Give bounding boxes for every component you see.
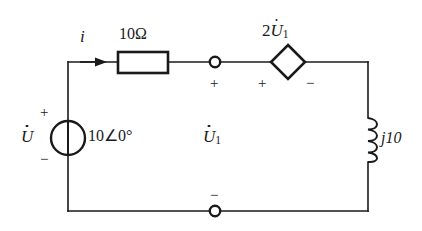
terminal-node-top [210, 57, 220, 67]
dependent-source-plus-sign: + [258, 76, 266, 91]
inductor-label-text: j10 [381, 129, 401, 146]
dependent-source-label: 2U1 [262, 22, 289, 41]
dependent-source-symbol [271, 45, 305, 79]
dependent-source-coeff: 2 [262, 21, 271, 40]
resistor-symbol [118, 52, 168, 73]
resistor-label: 10Ω [119, 26, 147, 42]
source-symbol-label: U [21, 128, 33, 145]
source-minus-sign: − [40, 152, 48, 167]
dependent-source-symbol-text: U [271, 22, 283, 39]
source-symbol-text: U [21, 128, 33, 145]
inductor-label: j10 [381, 130, 401, 146]
port-voltage-symbol-text: U [203, 128, 215, 145]
dependent-source-subscript: 1 [283, 28, 289, 41]
port-voltage-label: U1 [203, 128, 221, 147]
port-voltage-subscript: 1 [215, 134, 221, 147]
current-label: i [80, 28, 85, 45]
circuit-diagram: i 10Ω U + − 10∠0° 2U1 + − + − U1 j10 [0, 0, 422, 231]
source-value-label: 10∠0° [88, 128, 132, 144]
current-arrow-icon [80, 57, 107, 66]
inductor-symbol [368, 118, 377, 162]
port-plus-sign: + [210, 76, 218, 91]
voltage-source-symbol [51, 121, 85, 155]
source-plus-sign: + [40, 105, 48, 120]
terminal-node-bottom [210, 206, 220, 216]
dependent-source-minus-sign: − [306, 76, 314, 91]
port-minus-sign: − [210, 188, 218, 203]
